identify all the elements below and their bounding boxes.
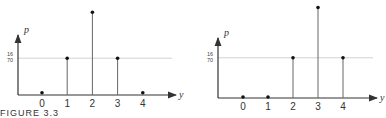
data-point xyxy=(91,10,95,14)
left-chart: 1670py01234 xyxy=(7,10,184,109)
x-tick-label: 3 xyxy=(315,101,321,112)
data-point xyxy=(341,56,345,60)
x-axis-label: y xyxy=(178,89,184,100)
x-tick-label: 1 xyxy=(64,98,70,109)
x-axis-label: y xyxy=(379,92,385,103)
x-tick-label: 3 xyxy=(115,98,121,109)
reference-label-denominator: 70 xyxy=(207,57,213,63)
data-point xyxy=(40,91,44,95)
data-point xyxy=(141,91,145,95)
x-tick-label: 2 xyxy=(290,101,296,112)
x-tick-label: 2 xyxy=(90,98,96,109)
data-point xyxy=(241,95,245,99)
data-point xyxy=(266,95,270,99)
right-chart: 1670py01234 xyxy=(207,6,385,112)
data-point xyxy=(316,6,320,10)
y-axis-label: p xyxy=(23,24,29,35)
data-point xyxy=(65,56,69,60)
data-point xyxy=(116,56,120,60)
x-tick-label: 4 xyxy=(140,98,146,109)
figure: 1670py01234 1670py01234 xyxy=(0,0,386,118)
y-axis-label: p xyxy=(223,27,229,38)
x-tick-label: 0 xyxy=(240,101,246,112)
data-point xyxy=(291,56,295,60)
figure-caption: FIGURE 3.3 xyxy=(0,108,59,118)
x-tick-label: 1 xyxy=(265,101,271,112)
x-tick-label: 4 xyxy=(340,101,346,112)
reference-label-denominator: 70 xyxy=(7,57,13,63)
